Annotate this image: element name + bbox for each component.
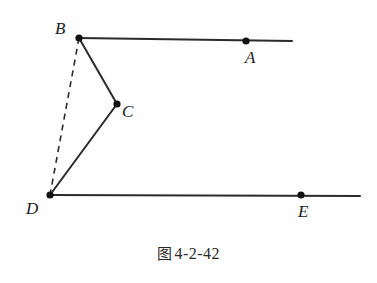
ray-de bbox=[50, 195, 360, 196]
figure-caption-number: 4-2-42 bbox=[174, 245, 220, 262]
point-a bbox=[242, 37, 249, 44]
point-label-d: D bbox=[26, 200, 38, 217]
point-d bbox=[46, 191, 53, 198]
point-c bbox=[113, 100, 120, 107]
point-e bbox=[297, 191, 304, 198]
point-b bbox=[75, 34, 82, 41]
segment-bc bbox=[79, 38, 117, 104]
geometry-figure: B A C D E 图4-2-42 bbox=[0, 0, 377, 283]
ray-ba bbox=[79, 38, 292, 41]
point-label-b: B bbox=[55, 20, 65, 37]
geometry-canvas bbox=[0, 0, 377, 283]
segment-cd bbox=[50, 104, 117, 195]
figure-caption-prefix: 图 bbox=[157, 245, 173, 263]
point-label-c: C bbox=[122, 103, 133, 120]
segment-bd-dashed bbox=[50, 38, 79, 195]
point-label-e: E bbox=[298, 203, 308, 220]
point-label-a: A bbox=[245, 49, 255, 66]
figure-caption: 图4-2-42 bbox=[0, 242, 377, 263]
